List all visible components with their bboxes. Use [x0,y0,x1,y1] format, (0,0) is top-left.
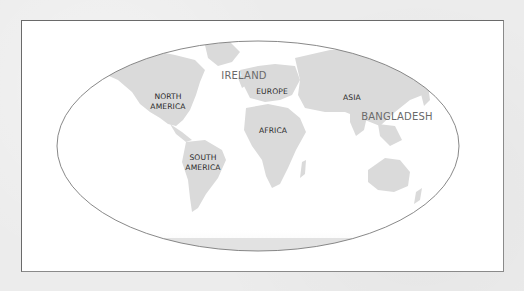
region-label-south-america: SOUTH AMERICA [185,153,220,173]
label-line: NORTH [150,92,185,102]
label-line: AMERICA [150,102,185,112]
region-label-africa: AFRICA [259,126,287,136]
north-america-land [95,50,205,126]
region-label-north-america: NORTH AMERICA [150,92,185,112]
new-zealand-land [414,188,422,204]
central-america-land [170,124,192,142]
greenland-land [205,42,240,66]
africa-land [244,104,306,188]
southeast-asia-land [378,124,402,146]
madagascar-land [300,160,306,178]
country-label-bangladesh: BANGLADESH [361,112,432,122]
region-label-europe: EUROPE [256,87,288,97]
australia-land [368,158,410,192]
south-america-land [182,140,226,212]
label-line: AMERICA [185,163,220,173]
world-map [0,0,524,291]
region-label-asia: ASIA [343,93,361,103]
label-line: SOUTH [185,153,220,163]
country-label-ireland: IRELAND [221,71,266,81]
